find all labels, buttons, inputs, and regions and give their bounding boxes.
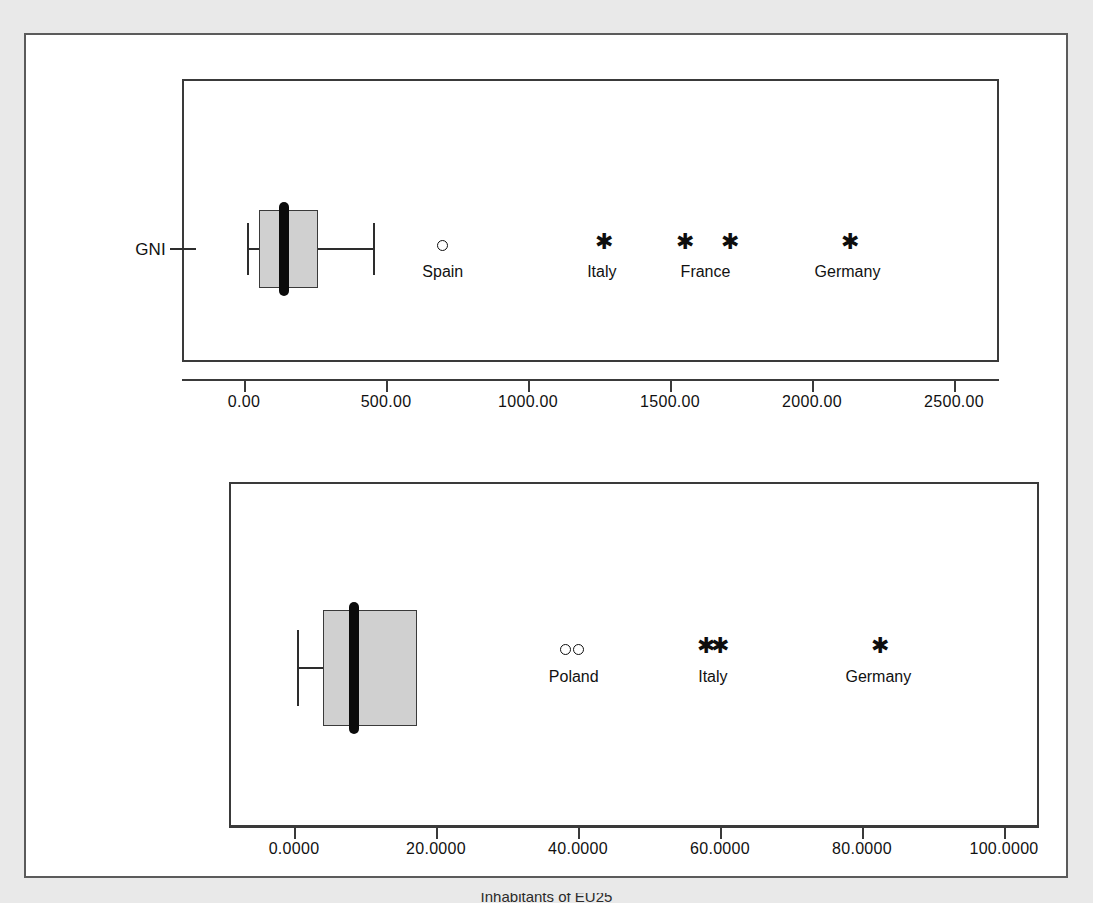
- axis-tick: [386, 381, 388, 392]
- axis-tick-label: 0.0000: [269, 840, 320, 858]
- category-tick-gni: [170, 248, 196, 250]
- outlier-star-france: ✱: [676, 237, 694, 247]
- axis-tick-label: 60.0000: [690, 840, 750, 858]
- axis-tick: [1004, 828, 1006, 839]
- median-line: [279, 202, 289, 296]
- axis-tick: [720, 828, 722, 839]
- axis-tick-label: 0.00: [228, 393, 260, 411]
- axis-tick-label: 20.0000: [406, 840, 466, 858]
- boxplot-nr-inhabitants: Nr_Inhabitants Poland✱Italy✱✱Germany 0.0…: [26, 440, 1070, 880]
- figure-panel: GNI Spain✱Italy✱France✱✱Germany 0.00500.…: [24, 33, 1068, 878]
- whisker-cap-low: [247, 223, 249, 274]
- outlier-label-poland: Poland: [549, 668, 599, 686]
- outlier-label-germany: Germany: [815, 263, 881, 281]
- axis-baseline: [229, 826, 1039, 828]
- outlier-star-italy: ✱: [595, 237, 613, 247]
- whisker-cap-low: [297, 630, 299, 707]
- axis-tick-label: 100.0000: [969, 840, 1038, 858]
- axis-tick: [578, 828, 580, 839]
- axis-tick: [528, 381, 530, 392]
- axis-tick: [954, 381, 956, 392]
- axis-tick-label: 2500.00: [924, 393, 984, 411]
- axis-tick: [670, 381, 672, 392]
- outlier-star-germany: ✱: [841, 237, 859, 247]
- scanned-page-background: GNI Spain✱Italy✱France✱✱Germany 0.00500.…: [0, 0, 1093, 903]
- whisker-low: [297, 667, 323, 669]
- axis-tick: [812, 381, 814, 392]
- axis-tick-label: 1000.00: [498, 393, 558, 411]
- category-label-gni: GNI: [56, 240, 166, 260]
- median-line: [349, 602, 359, 734]
- whisker-high: [318, 248, 373, 250]
- outlier-circle-poland2: [573, 644, 584, 655]
- outlier-label-germany: Germany: [845, 668, 911, 686]
- axis-tick: [244, 381, 246, 392]
- whisker-cap-high: [373, 223, 375, 274]
- boxplot-gni: GNI Spain✱Italy✱France✱✱Germany 0.00500.…: [26, 35, 1070, 440]
- outlier-label-italy: Italy: [587, 263, 616, 281]
- axis-tick-label: 40.0000: [548, 840, 608, 858]
- figure-caption: Inhabitants of EU25: [0, 893, 1093, 903]
- axis-tick: [862, 828, 864, 839]
- outlier-label-spain: Spain: [422, 263, 463, 281]
- outlier-label-france: France: [681, 263, 731, 281]
- outlier-star-italy2: ✱: [711, 641, 729, 651]
- axis-tick: [294, 828, 296, 839]
- axis-baseline: [182, 379, 999, 381]
- outlier-label-italy: Italy: [698, 668, 727, 686]
- axis-tick-label: 500.00: [361, 393, 412, 411]
- outlier-circle-poland: [560, 644, 571, 655]
- box-iqr: [323, 610, 417, 726]
- outlier-star-germany: ✱: [871, 641, 889, 651]
- outlier-star-france2: ✱: [721, 237, 739, 247]
- axis-tick-label: 2000.00: [782, 393, 842, 411]
- axis-tick-label: 1500.00: [640, 393, 700, 411]
- figure-caption-text: Inhabitants of EU25: [0, 893, 1093, 903]
- axis-tick-label: 80.0000: [832, 840, 892, 858]
- axis-tick: [436, 828, 438, 839]
